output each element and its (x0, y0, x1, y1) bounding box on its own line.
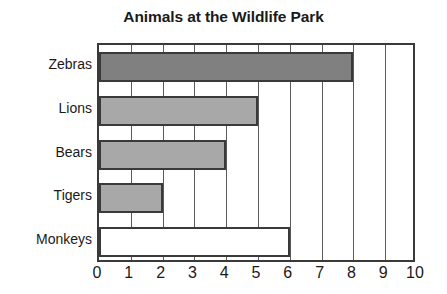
x-tick-label-0: 0 (93, 264, 102, 282)
plot-area (97, 43, 415, 262)
x-tick-label-6: 6 (283, 264, 292, 282)
x-tick-label-5: 5 (252, 264, 261, 282)
x-tick-label-7: 7 (315, 264, 324, 282)
bars-layer (99, 45, 413, 260)
bar-row (99, 140, 413, 170)
y-axis-label-tigers: Tigers (0, 187, 92, 203)
x-tick-label-4: 4 (220, 264, 229, 282)
bar-zebras (99, 52, 353, 82)
y-axis-category-labels: ZebrasLionsBearsTigersMonkeys (0, 43, 92, 262)
y-axis-label-bears: Bears (0, 144, 92, 160)
bar-tigers (99, 183, 163, 213)
bar-row (99, 183, 413, 213)
bar-monkeys (99, 227, 290, 257)
x-tick-label-8: 8 (347, 264, 356, 282)
x-axis-tick-labels: 012345678910 (97, 264, 415, 290)
bar-row (99, 96, 413, 126)
x-tick-label-1: 1 (124, 264, 133, 282)
y-axis-label-monkeys: Monkeys (0, 231, 92, 247)
bar-row (99, 52, 413, 82)
bar-lions (99, 96, 258, 126)
x-tick-label-10: 10 (406, 264, 424, 282)
bar-bears (99, 140, 226, 170)
x-tick-label-3: 3 (188, 264, 197, 282)
bar-chart: Animals at the Wildlife Park ZebrasLions… (0, 0, 447, 294)
chart-title: Animals at the Wildlife Park (0, 8, 447, 26)
x-tick-label-9: 9 (379, 264, 388, 282)
y-axis-label-lions: Lions (0, 100, 92, 116)
y-axis-label-zebras: Zebras (0, 56, 92, 72)
bar-row (99, 227, 413, 257)
x-tick-label-2: 2 (156, 264, 165, 282)
